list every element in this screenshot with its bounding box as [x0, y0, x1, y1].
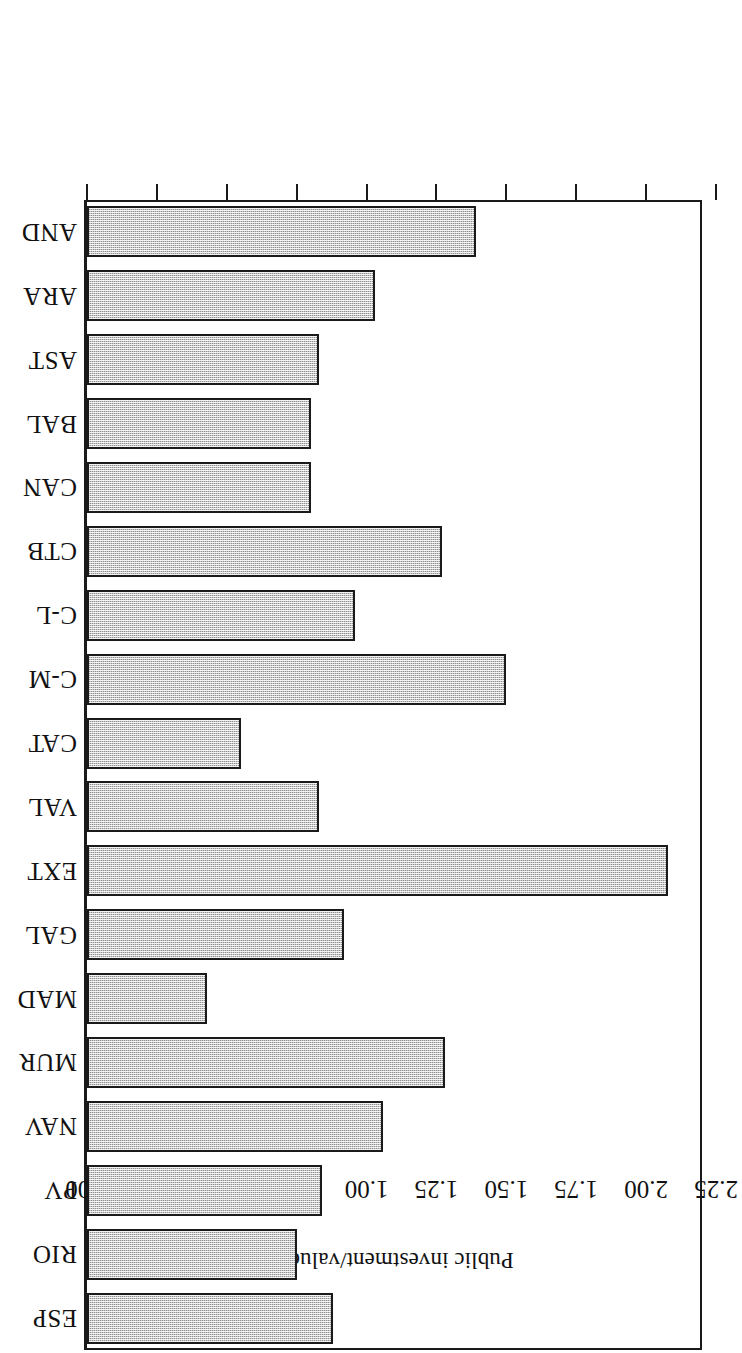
- bar-row: CAN: [0, 462, 742, 513]
- bar-row: MAD: [0, 973, 742, 1024]
- category-label: AST: [2, 334, 77, 385]
- axis-tick: [226, 184, 228, 200]
- category-label: EXT: [2, 845, 77, 896]
- category-label: VAL: [2, 781, 77, 832]
- bar-row: VAL: [0, 781, 742, 832]
- bar: [87, 781, 319, 832]
- axis-tick: [645, 184, 647, 200]
- axis-tick: [575, 184, 577, 200]
- bar-row: MUR: [0, 1037, 742, 1088]
- category-label: C-M: [2, 654, 77, 705]
- bar: [87, 398, 311, 449]
- bar-row: EXT: [0, 845, 742, 896]
- axis-tick: [715, 184, 717, 200]
- bar-series: ANDARAASTBALCANCTBC-LC-MCATVALEXTGALMADM…: [0, 200, 742, 1350]
- category-label: ESP: [2, 1293, 77, 1344]
- bar: [87, 334, 319, 385]
- bar-row: CAT: [0, 718, 742, 769]
- category-label: C-L: [2, 590, 77, 641]
- category-label: CAT: [2, 718, 77, 769]
- axis-tick: [296, 184, 298, 200]
- bar: [87, 206, 476, 257]
- category-label: MUR: [2, 1037, 77, 1088]
- category-label: GAL: [2, 909, 77, 960]
- category-label: ARA: [2, 270, 77, 321]
- bar: [87, 1101, 383, 1152]
- bar: [87, 1037, 445, 1088]
- bar-row: AND: [0, 206, 742, 257]
- bar-row: C-M: [0, 654, 742, 705]
- axis-tick: [156, 184, 158, 200]
- bar-chart-figure: 0.000.250.500.751.001.251.501.752.002.25…: [0, 0, 742, 1353]
- bar-row: NAV: [0, 1101, 742, 1152]
- category-label: BAL: [2, 398, 77, 449]
- bar: [87, 909, 344, 960]
- bar: [87, 590, 355, 641]
- axis-tick: [505, 184, 507, 200]
- category-label: CAN: [2, 462, 77, 513]
- bar: [87, 845, 668, 896]
- category-label: NAV: [2, 1101, 77, 1152]
- bar: [87, 718, 241, 769]
- category-label: PV: [2, 1165, 77, 1216]
- bar: [87, 270, 375, 321]
- bar: [87, 1293, 333, 1344]
- bar-row: AST: [0, 334, 742, 385]
- bar-row: GAL: [0, 909, 742, 960]
- axis-ticks: [0, 182, 742, 200]
- category-label: CTB: [2, 526, 77, 577]
- category-label: MAD: [2, 973, 77, 1024]
- bar: [87, 973, 207, 1024]
- axis-tick: [366, 184, 368, 200]
- bar-row: C-L: [0, 590, 742, 641]
- bar-row: ARA: [0, 270, 742, 321]
- chart-area: 0.000.250.500.751.001.251.501.752.002.25…: [0, 0, 742, 1353]
- axis-tick: [435, 184, 437, 200]
- bar: [87, 526, 442, 577]
- category-label: RIO: [2, 1229, 77, 1280]
- bar-row: PV: [0, 1165, 742, 1216]
- bar-row: BAL: [0, 398, 742, 449]
- bar: [87, 654, 506, 705]
- category-label: AND: [2, 206, 77, 257]
- bar-row: CTB: [0, 526, 742, 577]
- bar-row: RIO: [0, 1229, 742, 1280]
- axis-tick: [86, 184, 88, 200]
- bar: [87, 462, 311, 513]
- bar: [87, 1229, 297, 1280]
- bar: [87, 1165, 322, 1216]
- bar-row: ESP: [0, 1293, 742, 1344]
